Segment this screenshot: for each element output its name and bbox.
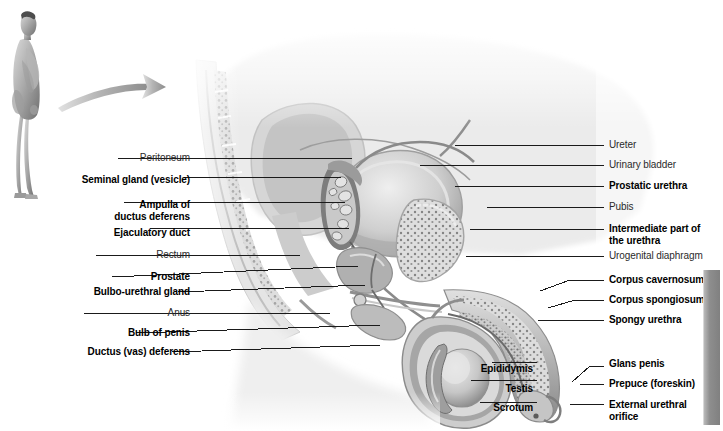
label-scrotum: Scrotum	[434, 402, 533, 414]
label-bulbo-urethral-gland: Bulbo-urethral gland	[40, 286, 190, 298]
label-seminal-gland-vesicle: Seminal gland (vesicle)	[40, 174, 190, 186]
curved-arrow	[58, 74, 166, 112]
label-pubis: Pubis	[609, 201, 721, 213]
label-prostatic-urethra: Prostatic urethra	[609, 180, 721, 192]
label-urinary-bladder: Urinary bladder	[609, 159, 721, 171]
leader-corpus-cavernosum	[540, 280, 604, 291]
label-ejaculatory-duct: Ejaculatory duct	[40, 227, 190, 239]
label-peritoneum: Peritoneum	[40, 152, 190, 164]
label-testis: Testis	[434, 383, 533, 395]
label-anus: Anus	[40, 307, 190, 319]
external-urethral-orifice	[533, 413, 538, 418]
anus	[300, 300, 336, 328]
right-edge-gray-bar[interactable]	[703, 270, 720, 425]
leader-corpus-spongiosum	[548, 300, 604, 308]
label-prostate: Prostate	[40, 271, 190, 283]
anatomy-figure: PeritoneumSeminal gland (vesicle)Ampulla…	[0, 0, 723, 431]
label-urogenital-diaphragm: Urogenital diaphragm	[609, 250, 721, 262]
label-ampulla-of-ductus-deferens: Ampulla of ductus deferens	[40, 199, 190, 222]
label-bulb-of-penis: Bulb of penis	[40, 327, 190, 339]
label-rectum: Rectum	[40, 249, 190, 261]
pubis	[396, 199, 463, 281]
bulb-of-penis	[351, 305, 405, 340]
body-orientation-figure	[12, 11, 40, 200]
label-epididymis: Epididymis	[434, 363, 533, 375]
label-ureter: Ureter	[609, 139, 721, 151]
seminal-gland	[321, 161, 362, 251]
label-ductus-vas-deferens: Ductus (vas) deferens	[40, 346, 190, 358]
label-intermediate-part-of-the-urethra: Intermediate part of the urethra	[609, 223, 721, 246]
